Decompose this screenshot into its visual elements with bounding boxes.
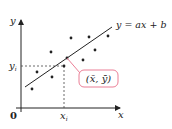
y-axis-label: y	[9, 15, 16, 26]
regression-diagram: (x̄, ȳ) y x 0 y = ax + b yi xi	[0, 0, 172, 129]
mean-point-label: (x̄, ȳ)	[86, 73, 112, 84]
x-i-label: xi	[60, 110, 68, 122]
y-i-label: yi	[8, 60, 17, 72]
x-axis-label: x	[118, 109, 124, 120]
mean-point-connector	[67, 58, 80, 73]
origin-label: 0	[10, 110, 17, 121]
line-equation-label: y = ax + b	[115, 19, 166, 30]
